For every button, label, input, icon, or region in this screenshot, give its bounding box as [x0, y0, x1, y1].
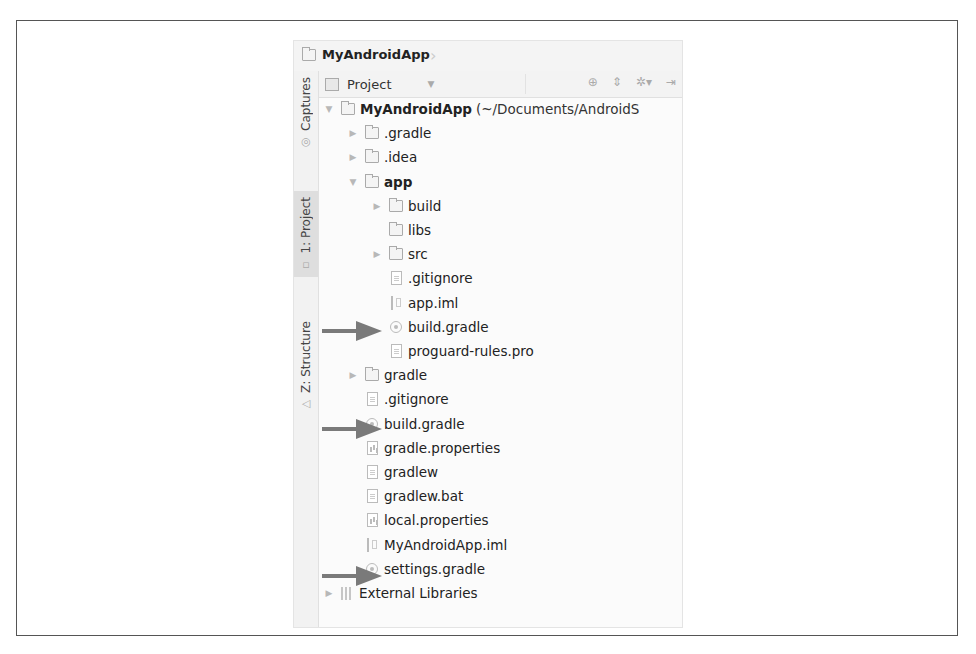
- collapsed-triangle-icon[interactable]: ▶: [371, 201, 383, 211]
- tree-item[interactable]: libs: [319, 219, 682, 241]
- text-file-icon: [367, 465, 378, 479]
- stripe-button-captures[interactable]: Captures ◎: [294, 77, 318, 148]
- folder-icon: [365, 151, 379, 163]
- breadcrumb-separator: ›: [430, 45, 440, 67]
- collapsed-triangle-icon[interactable]: ▶: [347, 128, 359, 138]
- folder-icon: [365, 176, 379, 188]
- tool-window-stripe: Captures ◎ 1: Project ▫ Z: Structure ◁: [294, 71, 319, 627]
- tree-item[interactable]: gradlew.bat: [319, 485, 682, 507]
- project-view-icon: [325, 78, 339, 91]
- tree-item-label: build.gradle: [384, 416, 465, 432]
- tree-item-label: MyAndroidApp: [360, 101, 472, 117]
- folder-icon: [389, 248, 403, 260]
- callout-arrow-app-build-gradle: [322, 320, 384, 342]
- tree-item[interactable]: local.properties: [319, 509, 682, 531]
- navigation-bar: MyAndroidApp ›: [294, 41, 682, 72]
- tree-item-label: MyAndroidApp.iml: [384, 537, 507, 553]
- tree-item[interactable]: ▶gradle: [319, 364, 682, 386]
- stripe-button-structure[interactable]: Z: Structure ◁: [294, 321, 318, 410]
- tree-item-label: .gradle: [384, 125, 431, 141]
- folder-icon: [389, 200, 403, 212]
- tree-item[interactable]: ▼app: [319, 171, 682, 193]
- tree-item-label: build: [408, 198, 441, 214]
- tree-item-label: local.properties: [384, 512, 489, 528]
- iml-file-icon: [367, 538, 378, 552]
- text-file-icon: [391, 344, 402, 358]
- stripe-label: 1: Project: [299, 197, 313, 254]
- folder-icon: [341, 103, 355, 115]
- tree-item[interactable]: ▶.gradle: [319, 122, 682, 144]
- text-file-icon: [367, 489, 378, 503]
- tree-item-label: app.iml: [408, 295, 458, 311]
- tree-item[interactable]: ▶src: [319, 243, 682, 265]
- tree-item[interactable]: gradle.properties: [319, 437, 682, 459]
- tree-item-label: gradle: [384, 367, 427, 383]
- properties-file-icon: [367, 441, 378, 455]
- expanded-triangle-icon[interactable]: ▼: [323, 104, 335, 114]
- tree-item[interactable]: .gitignore: [319, 267, 682, 289]
- tree-item-label: libs: [408, 222, 431, 238]
- folder-icon: [302, 49, 316, 61]
- view-mode-label: Project: [347, 77, 391, 92]
- settings-icon[interactable]: ✲▾: [636, 75, 652, 89]
- tree-item[interactable]: proguard-rules.pro: [319, 340, 682, 362]
- tree-item-label: .gitignore: [408, 270, 473, 286]
- stripe-button-project[interactable]: 1: Project ▫: [294, 191, 318, 277]
- tree-item-label: app: [384, 174, 412, 190]
- tree-item-label: gradlew: [384, 464, 438, 480]
- toolbar-actions: ⊕ ⇕ ✲▾ ⇥: [588, 75, 676, 89]
- tree-item[interactable]: app.iml: [319, 292, 682, 314]
- tree-item-label: proguard-rules.pro: [408, 343, 534, 359]
- tree-item[interactable]: .gitignore: [319, 388, 682, 410]
- expanded-triangle-icon[interactable]: ▼: [347, 177, 359, 187]
- captures-icon: ◎: [301, 135, 311, 148]
- tree-item-label: gradlew.bat: [384, 488, 463, 504]
- tree-item[interactable]: ▶.idea: [319, 146, 682, 168]
- project-icon: ▫: [302, 258, 309, 271]
- tree-item-label: build.gradle: [408, 319, 489, 335]
- nav-project-name: MyAndroidApp: [322, 47, 430, 62]
- stripe-label: Z: Structure: [299, 321, 313, 393]
- iml-file-icon: [391, 296, 402, 310]
- properties-file-icon: [367, 513, 378, 527]
- tree-item[interactable]: ▶build: [319, 195, 682, 217]
- stripe-label: Captures: [299, 77, 313, 131]
- tree-item-label: settings.gradle: [384, 561, 485, 577]
- collapsed-triangle-icon[interactable]: ▶: [347, 152, 359, 162]
- text-file-icon: [367, 392, 378, 406]
- tree-item-label: External Libraries: [359, 585, 478, 601]
- nav-project-crumb[interactable]: MyAndroidApp: [302, 47, 430, 62]
- tree-item[interactable]: gradlew: [319, 461, 682, 483]
- project-toolbar: Project ▼ ⊕ ⇕ ✲▾ ⇥: [319, 71, 682, 98]
- collapsed-triangle-icon[interactable]: ▶: [347, 370, 359, 380]
- folder-icon: [389, 224, 403, 236]
- locate-icon[interactable]: ⊕: [588, 75, 598, 89]
- tree-item[interactable]: MyAndroidApp.iml: [319, 534, 682, 556]
- view-mode-dropdown[interactable]: Project ▼: [325, 74, 526, 94]
- tree-item-label: src: [408, 246, 428, 262]
- text-file-icon: [391, 271, 402, 285]
- tree-root-path: (~/Documents/AndroidS: [476, 101, 639, 117]
- structure-icon: ◁: [302, 397, 310, 410]
- gradle-file-icon: [390, 321, 402, 333]
- project-tree: ▼MyAndroidApp(~/Documents/AndroidS▶.grad…: [319, 98, 682, 627]
- collapsed-triangle-icon[interactable]: ▶: [371, 249, 383, 259]
- callout-arrow-root-build-gradle: [322, 418, 384, 440]
- tree-item-label: .idea: [384, 149, 417, 165]
- library-icon: [341, 587, 353, 600]
- tree-item-label: gradle.properties: [384, 440, 500, 456]
- tree-item-label: .gitignore: [384, 391, 449, 407]
- folder-icon: [365, 369, 379, 381]
- folder-icon: [365, 127, 379, 139]
- tree-root-item[interactable]: ▼MyAndroidApp(~/Documents/AndroidS: [319, 98, 682, 120]
- collapsed-triangle-icon[interactable]: ▶: [323, 588, 335, 598]
- callout-arrow-settings-gradle: [322, 565, 384, 587]
- hide-icon[interactable]: ⇥: [666, 75, 676, 89]
- collapse-all-icon[interactable]: ⇕: [612, 75, 622, 89]
- chevron-down-icon: ▼: [427, 79, 434, 89]
